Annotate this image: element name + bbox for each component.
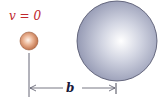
small-ball bbox=[20, 32, 38, 50]
large-sphere bbox=[77, 1, 157, 81]
velocity-label: v = 0 bbox=[9, 9, 41, 23]
distance-label: b bbox=[66, 81, 74, 95]
